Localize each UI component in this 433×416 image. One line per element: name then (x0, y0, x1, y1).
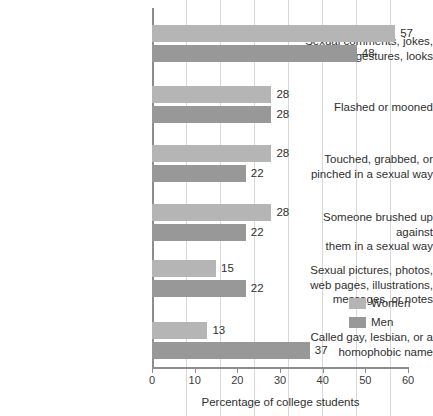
bar-men-4 (152, 280, 246, 297)
x-tick-label-0: 0 (137, 374, 167, 386)
legend: Women Men (349, 296, 410, 334)
bar-value-label: 22 (251, 280, 264, 297)
bar-value-label: 15 (221, 260, 234, 277)
x-tick-label-50: 50 (350, 374, 380, 386)
bar-men-0 (152, 45, 357, 62)
bar-value-label: 13 (212, 322, 225, 339)
category-label-line: web pages, illustrations, (285, 278, 433, 293)
bar-women-3 (152, 204, 271, 221)
x-tick-label-10: 10 (180, 374, 210, 386)
legend-item-women[interactable]: Women (349, 296, 410, 311)
bar-value-label: 28 (276, 86, 289, 103)
x-axis-title: Percentage of college students (152, 396, 409, 408)
bar-value-label: 48 (362, 45, 375, 62)
bar-value-label: 37 (315, 342, 328, 359)
category-label-line: pinched in a sexual way (285, 167, 433, 182)
legend-swatch-women-icon (349, 298, 366, 309)
x-tick-label-60: 60 (393, 374, 423, 386)
category-label-2: Touched, grabbed, or pinched in a sexual… (285, 152, 433, 181)
legend-label-women: Women (371, 298, 410, 309)
x-tick-mark-10 (195, 368, 196, 373)
legend-label-men: Men (371, 317, 393, 328)
x-tick-mark-50 (365, 368, 366, 373)
category-label-3: Someone brushed up against them in a sex… (285, 210, 433, 254)
bar-women-5 (152, 322, 207, 339)
x-tick-mark-0 (152, 368, 153, 373)
bar-chart: Sexual comments, jokes, gestures, looks … (0, 0, 433, 416)
category-label-line: Flashed or mooned (285, 100, 433, 115)
bar-value-label: 28 (276, 145, 289, 162)
category-label-line: Touched, grabbed, or (285, 152, 433, 167)
x-tick-label-30: 30 (265, 374, 295, 386)
bar-women-1 (152, 86, 271, 103)
category-label-line: Someone brushed up against (285, 210, 433, 239)
bar-women-2 (152, 145, 271, 162)
x-tick-mark-30 (280, 368, 281, 373)
legend-item-men[interactable]: Men (349, 315, 410, 330)
bar-women-4 (152, 260, 216, 277)
y-axis-line (152, 8, 154, 368)
x-tick-label-20: 20 (222, 374, 252, 386)
bar-value-label: 28 (276, 106, 289, 123)
x-tick-mark-20 (237, 368, 238, 373)
bar-value-label: 28 (276, 204, 289, 221)
bar-value-label: 22 (251, 224, 264, 241)
category-label-1: Flashed or mooned (285, 100, 433, 115)
x-tick-mark-40 (323, 368, 324, 373)
bar-men-2 (152, 165, 246, 182)
bar-women-0 (152, 25, 395, 42)
bar-value-label: 57 (400, 25, 413, 42)
x-tick-label-40: 40 (308, 374, 338, 386)
legend-swatch-men-icon (349, 317, 366, 328)
bar-men-5 (152, 342, 310, 359)
bar-value-label: 22 (251, 165, 264, 182)
bar-men-1 (152, 106, 271, 123)
category-label-line: Sexual pictures, photos, (285, 263, 433, 278)
bar-men-3 (152, 224, 246, 241)
x-tick-mark-60 (408, 368, 409, 373)
category-label-line: them in a sexual way (285, 239, 433, 254)
